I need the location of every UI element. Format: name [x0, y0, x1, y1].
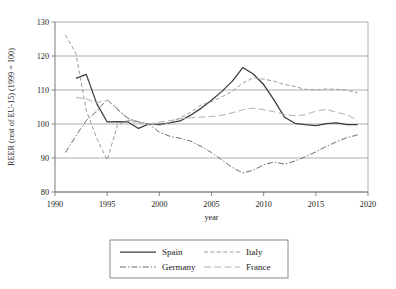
ytick-label-130: 130	[37, 18, 49, 27]
xtick-label-1990: 1990	[47, 200, 63, 209]
series-line-spain	[76, 68, 358, 129]
legend-box	[110, 240, 288, 278]
x-axis-title: year	[204, 213, 218, 222]
ytick-label-110: 110	[37, 86, 49, 95]
xtick-label-1995: 1995	[99, 200, 115, 209]
xtick-label-2010: 2010	[255, 200, 271, 209]
chart-container: 8090100110120130199019952000200520102015…	[0, 0, 396, 289]
legend-label-germany[interactable]: Germany	[162, 262, 196, 272]
ytick-label-120: 120	[37, 52, 49, 61]
xtick-label-2015: 2015	[308, 200, 324, 209]
xtick-label-2020: 2020	[360, 200, 376, 209]
legend-label-france[interactable]: France	[246, 262, 271, 272]
series-line-germany	[65, 100, 357, 173]
reer-line-chart: 8090100110120130199019952000200520102015…	[0, 0, 396, 289]
series-line-italy	[65, 35, 357, 160]
ytick-label-100: 100	[37, 120, 49, 129]
xtick-label-2005: 2005	[203, 200, 219, 209]
xtick-label-2000: 2000	[151, 200, 167, 209]
ytick-label-80: 80	[41, 188, 49, 197]
legend-label-spain[interactable]: Spain	[162, 247, 183, 257]
ytick-label-90: 90	[41, 154, 49, 163]
legend-label-italy[interactable]: Italy	[246, 247, 263, 257]
y-axis-title: REER (rest of EU-15) (1999 = 100)	[7, 48, 16, 166]
